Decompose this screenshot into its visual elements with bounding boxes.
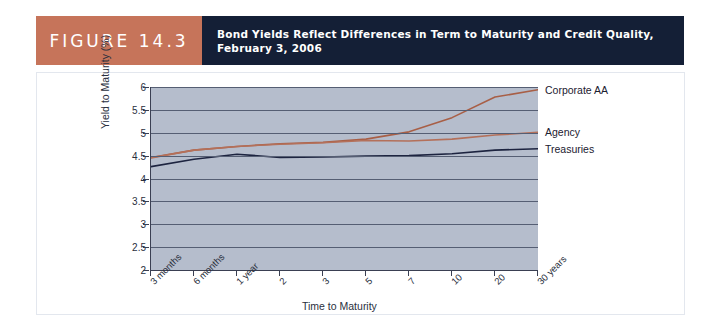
legend-label-corporate-aa: Corporate AA <box>545 84 608 96</box>
figure-header: FIGURE 14.3 Bond Yields Reflect Differen… <box>36 16 684 65</box>
legend-label-treasuries: Treasuries <box>545 143 594 155</box>
chart-legend: Corporate AAAgencyTreasuries <box>37 73 686 316</box>
figure-number-tag: FIGURE 14.3 <box>36 16 202 65</box>
chart-card: Yield to Maturity (%) 22.533.544.555.56 … <box>36 72 685 315</box>
figure-title-bar: Bond Yields Reflect Differences in Term … <box>202 16 684 65</box>
figure-title: Bond Yields Reflect Differences in Term … <box>217 27 654 55</box>
figure-title-line-1: Bond Yields Reflect Differences in Term … <box>217 28 654 40</box>
line-chart: Yield to Maturity (%) 22.533.544.555.56 … <box>37 73 686 316</box>
legend-label-agency: Agency <box>545 126 580 138</box>
figure-title-line-2: February 3, 2006 <box>217 42 322 54</box>
